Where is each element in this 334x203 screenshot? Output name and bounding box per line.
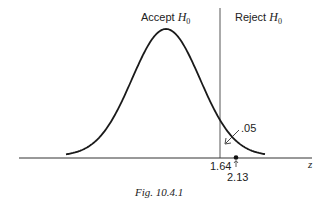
observed-value-label: 2.13 (227, 172, 248, 183)
observed-value-arrow-icon (234, 161, 238, 168)
accept-hypothesis-symbol: H0 (178, 10, 191, 24)
tail-area-label: .05 (241, 123, 256, 134)
accept-prefix: Accept (141, 11, 178, 23)
z-axis-label: z (308, 159, 312, 170)
normal-curve (66, 29, 265, 154)
normal-distribution-figure: Accept H0 Reject H0 .05 1.64 2.13 z Fig.… (0, 0, 334, 203)
reject-region-label: Reject H0 (235, 11, 282, 26)
observed-value-dot (234, 155, 239, 160)
accept-region-label: Accept H0 (141, 11, 190, 26)
figure-caption: Fig. 10.4.1 (135, 186, 183, 198)
chart-canvas (0, 0, 334, 203)
reject-hypothesis-symbol: H0 (269, 10, 282, 24)
reject-prefix: Reject (235, 11, 269, 23)
